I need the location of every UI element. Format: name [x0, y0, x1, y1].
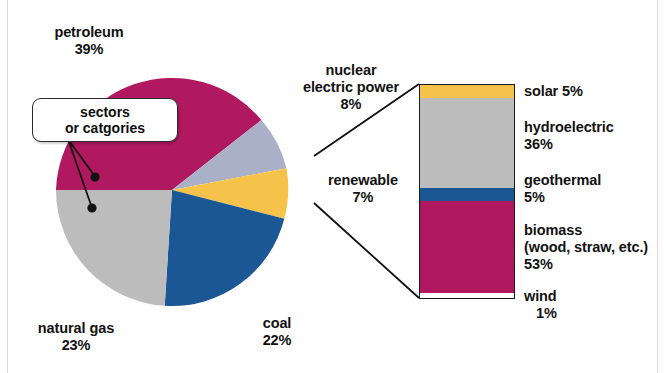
pie-label-petroleum: petroleum 39%: [24, 24, 154, 58]
pie-label-petroleum-pct: 39%: [24, 41, 154, 58]
bar-label-solar-text: solar 5%: [524, 83, 583, 100]
callout-box[interactable]: sectors or catgories: [32, 98, 178, 142]
bar-segment-solar: [420, 85, 514, 98]
bar-label-geothermal-line1: geothermal: [524, 172, 601, 189]
bar-label-wind: wind 1%: [524, 288, 557, 322]
pie-label-petroleum-name: petroleum: [24, 24, 154, 41]
bar-label-geothermal-line2: 5%: [524, 189, 601, 206]
callout-line-1: sectors: [80, 104, 130, 120]
pie-label-natural-gas: natural gas 23%: [12, 320, 140, 354]
renewable-breakdown-bar: [419, 84, 515, 299]
pie-label-natural-gas-name: natural gas: [12, 320, 140, 337]
bar-label-biomass-line3: 53%: [524, 256, 648, 273]
chart-page: petroleum 39% nuclear electric power 8% …: [0, 0, 666, 373]
pie-label-coal: coal 22%: [232, 315, 322, 349]
bar-label-solar: solar 5%: [524, 83, 583, 100]
pie-label-nuclear-line1: nuclear: [288, 62, 414, 79]
bar-label-wind-line1: wind: [524, 288, 557, 305]
page-edge-rule-left: [7, 0, 8, 373]
bar-segment-biomass: [420, 201, 514, 293]
bar-segment-geothermal: [420, 188, 514, 201]
pie-label-coal-name: coal: [232, 315, 322, 332]
pie-label-renewable-pct: 7%: [313, 189, 413, 206]
bar-label-wind-line2: 1%: [524, 305, 557, 322]
bar-label-biomass-line2: (wood, straw, etc.): [524, 239, 648, 256]
bar-segment-wind: [420, 293, 514, 298]
bar-label-hydroelectric-line2: 36%: [524, 136, 614, 153]
pie-label-nuclear-pct: 8%: [288, 96, 414, 113]
bar-label-biomass: biomass (wood, straw, etc.) 53%: [524, 222, 648, 273]
callout-line-2: or catgories: [65, 120, 145, 136]
bar-label-hydroelectric: hydroelectric 36%: [524, 119, 614, 153]
bar-label-hydroelectric-line1: hydroelectric: [524, 119, 614, 136]
page-edge-rule-right: [657, 0, 658, 373]
pie-label-nuclear-line2: electric power: [288, 79, 414, 96]
bar-segment-hydroelectric: [420, 98, 514, 189]
pie-slice-natural-gas: [56, 190, 172, 306]
pie-label-coal-pct: 22%: [232, 332, 322, 349]
explode-leader-bottom: [314, 203, 419, 298]
bar-label-biomass-line1: biomass: [524, 222, 648, 239]
bar-label-geothermal: geothermal 5%: [524, 172, 601, 206]
pie-label-natural-gas-pct: 23%: [12, 337, 140, 354]
pie-label-nuclear: nuclear electric power 8%: [288, 62, 414, 113]
pie-label-renewable: renewable 7%: [313, 172, 413, 206]
pie-label-renewable-name: renewable: [313, 172, 413, 189]
